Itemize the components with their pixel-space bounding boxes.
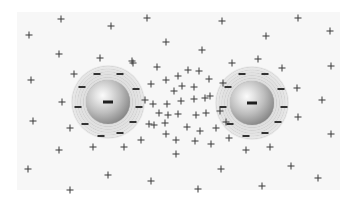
right-sphere bbox=[230, 81, 274, 125]
left-sphere bbox=[86, 80, 130, 124]
charge-diagram bbox=[0, 0, 357, 199]
diagram-panel bbox=[17, 12, 340, 190]
